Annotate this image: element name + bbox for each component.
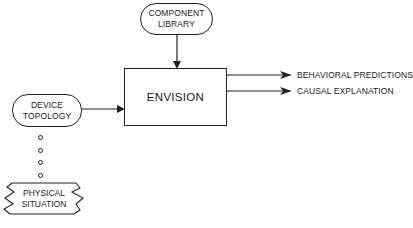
physical-situation-line2: SITUATION [22, 199, 67, 210]
envision-node: ENVISION [124, 68, 227, 126]
envision-label: ENVISION [147, 91, 204, 103]
output-behavioral-predictions: BEHAVIORAL PREDICTIONS [297, 70, 413, 80]
component-library-line1: COMPONENT [148, 8, 204, 19]
output-causal-explanation: CAUSAL EXPLANATION [297, 86, 394, 96]
physical-situation-line1: PHYSICAL [23, 188, 65, 199]
physical-situation-node: PHYSICAL SITUATION [12, 185, 76, 213]
connector-dot [38, 135, 43, 140]
connector-dot [38, 173, 43, 178]
device-topology-node: DEVICE TOPOLOGY [12, 94, 82, 127]
device-topology-line1: DEVICE [31, 100, 63, 111]
connector-dot [38, 160, 43, 165]
component-library-line2: LIBRARY [158, 19, 195, 30]
component-library-node: COMPONENT LIBRARY [140, 3, 213, 35]
device-topology-line2: TOPOLOGY [23, 111, 71, 122]
connector-dot [38, 148, 43, 153]
